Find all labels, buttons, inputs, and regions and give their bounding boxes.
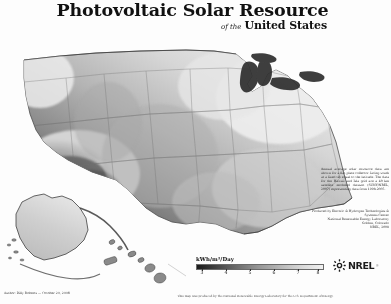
credit-line: Produced by Electric & Hydrogen Technolo…: [310, 209, 389, 217]
subtitle-prefix: of the: [221, 23, 242, 31]
nrel-wordmark: NREL: [348, 260, 374, 271]
gulf-coast-resource: [172, 172, 260, 232]
map-canvas: [0, 26, 391, 288]
legend-tick: 5: [249, 270, 252, 275]
legend-title: kWh/m²/Day: [196, 256, 324, 262]
producer-credit: Produced by Electric & Hydrogen Technolo…: [310, 206, 389, 229]
hawaii-inset: [103, 239, 167, 284]
legend-tick: 7: [297, 270, 300, 275]
legend-tick: 8: [317, 270, 320, 275]
credit-line: NREL, 2008: [310, 225, 389, 229]
legend-tick: 6: [273, 270, 276, 275]
legend-tick-labels: 3 4 5 6 7 8: [196, 270, 322, 279]
disclaimer-text: This map was produced by the National Re…: [0, 294, 391, 298]
solar-resource-poster: Photovoltaic Solar Resource of the Unite…: [0, 0, 391, 304]
legend-tick: 3: [201, 270, 204, 275]
nrel-sunburst-icon: [333, 259, 346, 272]
page-title: Photovoltaic Solar Resource: [0, 1, 391, 20]
legend: kWh/m²/Day 3 4 5 6 7 8: [196, 256, 324, 279]
aleutian-islands: [7, 239, 24, 261]
us-solar-resource-map: [0, 26, 391, 288]
alaska-inset: [7, 194, 128, 279]
nrel-logo: NREL ®: [333, 259, 378, 272]
inset-divider: [168, 264, 186, 276]
trademark-symbol: ®: [376, 264, 378, 268]
poster-subtitle: of the United States: [0, 19, 391, 32]
methodology-note: Annual average solar resource data are s…: [321, 168, 389, 191]
subtitle-text: United States: [245, 19, 328, 32]
poster-header: Photovoltaic Solar Resource of the Unite…: [0, 1, 391, 32]
rocky-mountain-resource: [74, 82, 142, 162]
alaska-peninsula: [20, 264, 100, 279]
legend-tick: 4: [225, 270, 228, 275]
